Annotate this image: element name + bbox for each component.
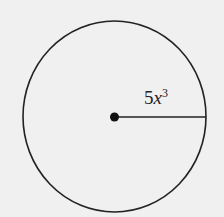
coefficient: 5 (144, 87, 154, 108)
exponent: 3 (162, 86, 168, 100)
radius-label: 5x3 (144, 86, 168, 109)
center-point (110, 113, 119, 122)
circle-diagram (0, 0, 224, 217)
variable: x (154, 87, 162, 108)
